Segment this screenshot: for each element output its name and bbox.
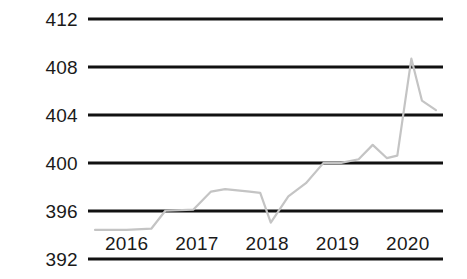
y-tick-label: 396 (0, 201, 78, 220)
line-chart: 412408404400396392 20162017201820192020 (0, 0, 467, 279)
series-polyline (95, 59, 436, 230)
y-tick-label: 404 (0, 105, 78, 124)
x-tick-label: 2020 (386, 232, 429, 256)
y-tick-label: 412 (0, 10, 78, 29)
x-tick-label: 2017 (175, 232, 218, 256)
x-axis-tick-labels: 20162017201820192020 (0, 232, 467, 262)
x-tick-label: 2018 (246, 232, 289, 256)
y-tick-label: 408 (0, 58, 78, 77)
x-tick-label: 2016 (105, 232, 148, 256)
y-tick-label: 400 (0, 153, 78, 172)
x-tick-label: 2019 (316, 232, 359, 256)
